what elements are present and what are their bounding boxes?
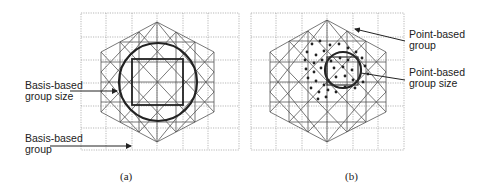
label-line: group xyxy=(409,40,465,51)
label-line: group xyxy=(25,144,83,155)
point-cloud xyxy=(304,40,370,101)
label-point-group-size: Point-based group size xyxy=(409,67,465,89)
arrow-point-group-size xyxy=(361,73,405,80)
label-basis-group-size: Basis-based group size xyxy=(25,80,83,102)
label-point-group: Point-based group xyxy=(409,29,465,51)
panel-a-grid xyxy=(81,13,239,150)
label-line: group size xyxy=(409,78,465,89)
caption-b: (b) xyxy=(345,170,358,182)
label-line: group size xyxy=(25,91,83,102)
figure: Basis-based group size Basis-based group… xyxy=(0,0,483,189)
caption-a: (a) xyxy=(120,170,132,182)
label-basis-group: Basis-based group xyxy=(25,133,83,155)
